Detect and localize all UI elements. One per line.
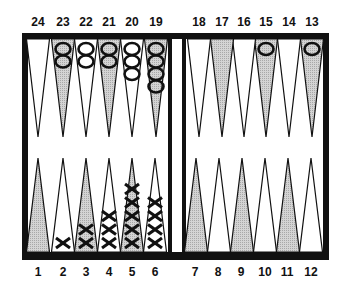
checker-o[interactable] (125, 56, 140, 68)
checker-o[interactable] (79, 43, 94, 55)
checker-o[interactable] (125, 68, 140, 80)
checker-o[interactable] (125, 43, 140, 55)
checker-o[interactable] (79, 56, 94, 68)
bar-right-edge (182, 36, 186, 254)
board-graphic (0, 0, 343, 294)
bar-left-edge (168, 36, 172, 254)
